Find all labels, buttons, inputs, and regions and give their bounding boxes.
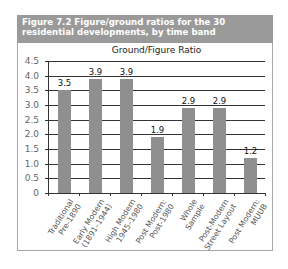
figure-header: Figure 7.2 Figure/ground ratios for the … bbox=[17, 15, 273, 43]
figure-title-line1: Figure 7.2 Figure/ground ratios for the … bbox=[22, 17, 268, 27]
gridline bbox=[48, 120, 265, 121]
x-axis bbox=[48, 193, 265, 194]
value-label: 1.2 bbox=[236, 146, 266, 156]
y-tick-label: 3.0 bbox=[15, 100, 39, 110]
y-tick-label: 4.5 bbox=[15, 56, 39, 66]
y-tick-label: 1.0 bbox=[15, 159, 39, 169]
gridline bbox=[48, 61, 265, 62]
value-label: 2.9 bbox=[174, 96, 204, 106]
x-tick bbox=[265, 193, 266, 196]
value-label: 3.5 bbox=[50, 78, 80, 88]
bar bbox=[151, 137, 164, 193]
bar bbox=[120, 79, 133, 193]
bar bbox=[58, 90, 71, 193]
bar bbox=[89, 79, 102, 193]
y-tick-label: 3.5 bbox=[15, 85, 39, 95]
plot-area: 4.54.03.53.02.52.01.51.00.503.5Tradition… bbox=[48, 61, 265, 193]
gridline bbox=[48, 90, 265, 91]
y-tick-label: 1.5 bbox=[15, 144, 39, 154]
y-tick-label: 0.5 bbox=[15, 173, 39, 183]
bar bbox=[244, 158, 257, 193]
bar bbox=[213, 108, 226, 193]
y-tick-label: 2.5 bbox=[15, 115, 39, 125]
figure-title-line2: residential developments, by time band bbox=[22, 27, 268, 37]
chart-title: Ground/Figure Ratio bbox=[48, 45, 265, 55]
value-label: 1.9 bbox=[143, 125, 173, 135]
value-label: 3.9 bbox=[81, 67, 111, 77]
y-tick-label: 2.0 bbox=[15, 129, 39, 139]
value-label: 2.9 bbox=[205, 96, 235, 106]
y-tick-label: 4.0 bbox=[15, 71, 39, 81]
bar bbox=[182, 108, 195, 193]
y-tick-label: 0 bbox=[15, 188, 39, 198]
value-label: 3.9 bbox=[112, 67, 142, 77]
